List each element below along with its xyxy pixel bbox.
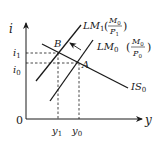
- svg-text:): ): [123, 20, 127, 33]
- shift-arrow-icon: [70, 43, 81, 50]
- tick-i1: i1: [13, 47, 21, 60]
- tick-i0: i0: [13, 64, 21, 77]
- svg-text:(: (: [104, 20, 108, 33]
- lm1-label: LM1 ( M0 P1 ): [82, 16, 127, 37]
- origin-label: 0: [16, 114, 23, 127]
- lm0-label: LM0 ( M0 P0 ): [96, 37, 151, 59]
- islm-diagram: i y 0 i1 i0 y1 y0 B A LM1 ( M0 P1 ) LM0 …: [0, 0, 164, 145]
- guide-lines: [26, 53, 79, 119]
- svg-text:P1: P1: [109, 27, 119, 37]
- tick-y1: y1: [51, 125, 62, 138]
- svg-text:M0: M0: [108, 16, 121, 26]
- point-a-label: A: [81, 59, 89, 70]
- x-axis-label: y: [144, 113, 152, 127]
- svg-text:M0: M0: [131, 37, 144, 47]
- is0-label: IS0: [130, 81, 146, 94]
- y-axis-label: i: [9, 22, 13, 36]
- svg-text:): ): [147, 41, 151, 54]
- svg-text:LM1: LM1: [82, 20, 104, 33]
- tick-y0: y0: [71, 125, 82, 138]
- svg-text:LM0: LM0: [96, 41, 118, 54]
- point-b-label: B: [53, 38, 61, 49]
- svg-text:(: (: [126, 41, 130, 54]
- svg-text:P0: P0: [132, 49, 142, 59]
- lm0-curve: [50, 40, 93, 101]
